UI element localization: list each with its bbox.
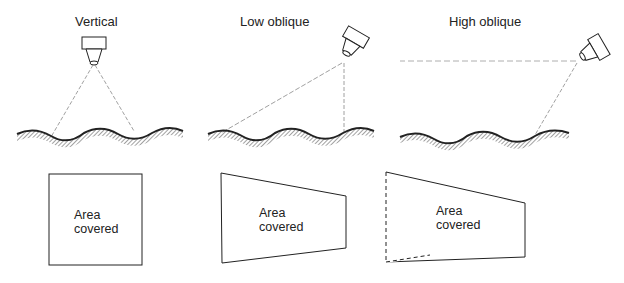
high-oblique-panel-scene	[400, 34, 610, 151]
ground-surface	[208, 128, 374, 147]
high-oblique-footprint-label: Area covered	[436, 204, 480, 232]
vertical-footprint-label: Area covered	[74, 208, 118, 236]
label-line-2: covered	[74, 222, 118, 236]
low-oblique-panel-scene	[208, 26, 374, 147]
view-ray-right	[95, 65, 134, 131]
ground-surface	[400, 131, 569, 151]
label-line-1: Area	[74, 208, 118, 222]
view-ray-far	[221, 63, 342, 133]
camera-icon	[575, 34, 610, 68]
label-line-2: covered	[259, 220, 303, 234]
label-line-2: covered	[436, 218, 480, 232]
aerial-photo-types-diagram	[0, 0, 624, 283]
view-ray-left	[51, 65, 93, 137]
label-line-1: Area	[259, 206, 303, 220]
camera-icon	[335, 26, 369, 61]
vertical-panel-scene	[17, 37, 183, 147]
label-line-1: Area	[436, 204, 480, 218]
camera-icon	[82, 37, 106, 65]
panel-title-high-oblique: High oblique	[449, 14, 521, 29]
panel-title-low-oblique: Low oblique	[240, 14, 309, 29]
low-oblique-footprint-label: Area covered	[259, 206, 303, 234]
ground-surface	[17, 128, 183, 147]
panel-title-vertical: Vertical	[75, 14, 118, 29]
view-ray-near	[535, 63, 577, 135]
